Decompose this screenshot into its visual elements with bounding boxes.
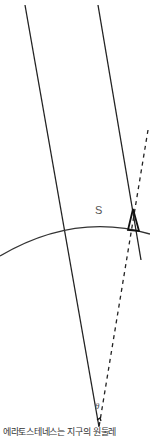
angle-theta-label: θ: [95, 401, 99, 411]
caption-text: 에라토스테네스는 지구의 원둘레: [3, 425, 116, 438]
arc-distance-label: S: [95, 204, 102, 216]
sun-ray-line-right: [98, 5, 141, 260]
sun-ray-line-left: [25, 5, 99, 427]
earth-radius-dashed-line: [99, 130, 148, 427]
eratosthenes-diagram: [0, 0, 150, 439]
